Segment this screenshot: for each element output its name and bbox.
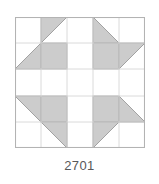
block-background — [15, 17, 145, 148]
patch-square — [41, 96, 67, 122]
patch-square — [93, 96, 119, 122]
patch-square — [41, 43, 67, 69]
quilt-block-svg — [15, 17, 145, 148]
pattern-number-label: 2701 — [0, 158, 159, 173]
pattern-page: 2701 — [0, 0, 159, 184]
patch-square — [93, 43, 119, 69]
quilt-block-figure — [15, 17, 145, 148]
